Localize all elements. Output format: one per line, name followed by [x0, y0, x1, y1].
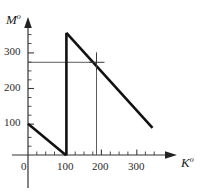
upper-branch-segment — [66, 33, 152, 128]
y-axis-label-superscript: o — [17, 12, 21, 21]
y-tick-label-100: 100 — [4, 116, 21, 128]
y-axis-arrowhead — [24, 17, 32, 28]
y-tick-label-200: 200 — [4, 81, 21, 93]
y-tick-label-300: 300 — [4, 45, 21, 57]
x-tick-label-0: 0 — [21, 160, 27, 172]
x-axis-ticks — [37, 150, 154, 156]
x-tick-label-200: 200 — [92, 160, 109, 172]
guide-lines — [28, 52, 97, 155]
y-axis-label: Mo — [6, 12, 21, 28]
x-tick-label-100: 100 — [57, 160, 74, 172]
intersection-cross-icon — [89, 54, 105, 71]
data-curve — [28, 33, 153, 156]
x-axis-label: Ko — [181, 155, 194, 171]
lower-branch-segment — [28, 124, 66, 155]
x-axis-label-superscript: o — [190, 155, 194, 164]
figure-canvas: Mo Ko 300 200 100 0 100 200 300 — [0, 0, 204, 192]
x-axis-arrowhead — [165, 151, 177, 158]
x-tick-label-300: 300 — [128, 160, 145, 172]
